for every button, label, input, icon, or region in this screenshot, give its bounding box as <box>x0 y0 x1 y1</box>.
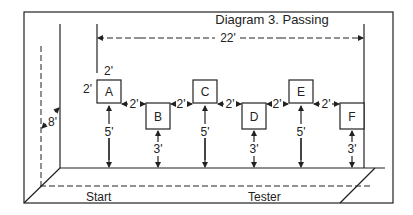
svg-text:5': 5' <box>201 125 210 139</box>
svg-text:3': 3' <box>250 142 259 156</box>
gap-c-d: 2' <box>218 97 241 111</box>
tester-label: Tester <box>248 190 281 204</box>
svg-text:F: F <box>348 110 355 124</box>
svg-text:2': 2' <box>273 97 282 111</box>
svg-text:E: E <box>297 85 305 99</box>
wall-height-arrow-down <box>42 124 46 128</box>
diagram-title: Diagram 3. Passing <box>215 12 328 27</box>
gap-a-b: 2' <box>122 97 145 111</box>
gap-d-e: 2' <box>267 97 288 111</box>
svg-text:5': 5' <box>105 125 114 139</box>
wall-height-label: 8' <box>48 115 57 129</box>
box-top-size-label: 2' <box>104 64 113 78</box>
outer-frame <box>24 12 393 203</box>
gap-e-f: 2' <box>314 97 339 111</box>
svg-text:2': 2' <box>130 97 139 111</box>
svg-text:D: D <box>250 110 259 124</box>
box-b: B 3' <box>146 103 170 167</box>
svg-text:B: B <box>154 110 162 124</box>
box-d: D 3' <box>242 103 266 167</box>
svg-text:3': 3' <box>348 142 357 156</box>
box-side-size-label: 2' <box>83 82 92 96</box>
gap-b-c: 2' <box>171 97 192 111</box>
svg-text:5': 5' <box>297 125 306 139</box>
svg-text:A: A <box>105 85 113 99</box>
svg-text:2': 2' <box>226 97 235 111</box>
box-a: A 5' <box>97 80 121 167</box>
box-f: F 3' <box>340 103 364 167</box>
svg-text:2': 2' <box>177 97 186 111</box>
box-e: E 5' <box>289 80 313 167</box>
passing-diagram: Diagram 3. Passing 8' 22' 2' 2' A 5' B 3… <box>0 0 413 215</box>
total-width-label: 22' <box>220 31 236 45</box>
svg-text:C: C <box>201 85 210 99</box>
start-label: Start <box>86 190 112 204</box>
svg-text:3': 3' <box>154 142 163 156</box>
box-c: C 5' <box>193 80 217 167</box>
wall-height-arrow-up <box>55 108 59 112</box>
svg-text:2': 2' <box>322 97 331 111</box>
